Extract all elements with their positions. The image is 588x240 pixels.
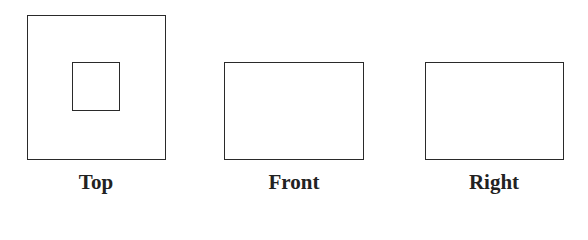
front-view-rectangle [224,62,364,160]
top-view-inner-square [72,62,120,111]
front-view-label: Front [214,170,374,194]
right-view-label: Right [414,170,574,194]
right-view-rectangle [425,62,564,160]
top-view-label: Top [16,170,176,194]
